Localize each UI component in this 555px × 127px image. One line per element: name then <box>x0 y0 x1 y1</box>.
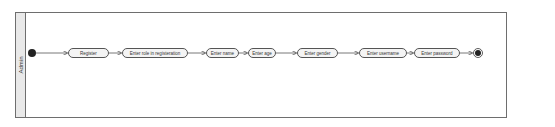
activity-enter-role: Enter role in registeration <box>122 48 188 58</box>
activity-enter-name: Enter name <box>206 48 239 58</box>
activity-enter-gender: Enter gender <box>297 48 338 58</box>
initial-node-icon <box>28 49 36 57</box>
activity-enter-username: Enter username <box>359 48 407 58</box>
activity-register: Register <box>68 48 109 58</box>
activity-enter-age: Enter age <box>248 48 276 58</box>
activity-enter-password: Enter password <box>414 48 460 58</box>
flow-edges <box>0 0 555 127</box>
